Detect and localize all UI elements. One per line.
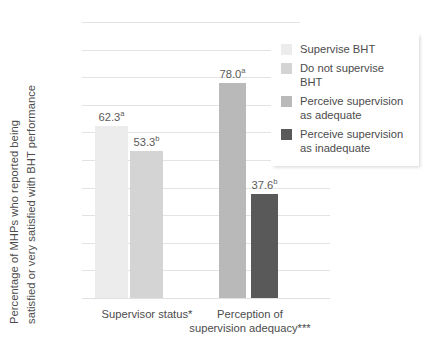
legend-swatch-icon — [281, 129, 292, 140]
bar — [219, 83, 246, 298]
x-axis-group-label-line1: Perception of — [189, 307, 310, 321]
legend-swatch-icon — [281, 44, 292, 55]
bar — [251, 194, 278, 298]
bar-chart: Percentage of MHPs who reported being sa… — [0, 0, 434, 340]
legend-item: Supervise BHT — [281, 42, 409, 57]
legend-item: Do not supervise BHT — [281, 61, 409, 90]
legend-swatch-icon — [281, 63, 292, 74]
legend-item: Perceive supervisionas inadequate — [281, 127, 409, 156]
x-axis-group-label: Perception ofsupervision adequacy*** — [189, 307, 310, 335]
x-axis-group-label-line2: supervision adequacy*** — [189, 321, 310, 335]
bar — [95, 126, 128, 298]
bar-value-label: 62.3a — [98, 109, 124, 123]
bar-value-label: 37.6b — [251, 177, 277, 191]
x-axis-group-label: Supervisor status* — [102, 307, 193, 321]
legend-item-label: Perceive supervisionas adequate — [300, 94, 403, 123]
legend-item-label: Supervise BHT — [300, 42, 375, 57]
legend-item-label: Perceive supervisionas inadequate — [300, 127, 403, 156]
y-axis-label-line1: Percentage of MHPs who reported being — [8, 120, 20, 324]
y-axis-label-line2: satisfied or very satisfied with BHT per… — [25, 85, 37, 324]
bar-value-label: 53.3b — [133, 134, 159, 148]
bar — [130, 151, 163, 298]
y-axis-label: Percentage of MHPs who reported being sa… — [0, 0, 56, 340]
gridline-0 — [82, 298, 330, 299]
legend-swatch-icon — [281, 96, 292, 107]
legend-item: Perceive supervisionas adequate — [281, 94, 409, 123]
legend-item-label: Do not supervise BHT — [300, 61, 409, 90]
legend: Supervise BHTDo not supervise BHTPerceiv… — [271, 33, 419, 166]
bar-value-label: 78.0a — [219, 66, 245, 80]
gridline-100 — [82, 22, 300, 23]
x-axis-group-label-line1: Supervisor status* — [102, 307, 193, 321]
